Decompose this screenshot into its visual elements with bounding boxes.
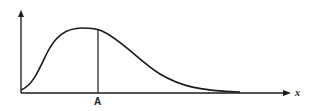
tick-label-a: A [94, 97, 101, 107]
x-axis [21, 90, 291, 96]
y-axis [18, 10, 24, 93]
x-axis-label: x [295, 88, 300, 98]
x-axis-arrow-icon [283, 90, 291, 96]
curve-line [21, 28, 240, 92]
chart-canvas [0, 0, 311, 111]
y-axis-arrow-icon [18, 10, 24, 17]
